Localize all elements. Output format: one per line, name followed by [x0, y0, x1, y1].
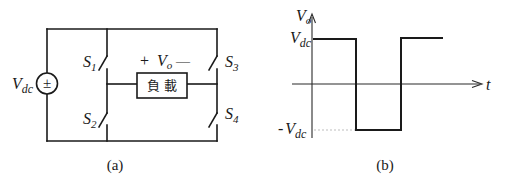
source-polarity-symbol: ± — [43, 75, 51, 91]
vo-plus-sign: + — [140, 52, 149, 69]
load-label: 負 載 — [147, 78, 177, 93]
diagram-canvas: ± Vdc 負 載 + Vo — S1 S2 S3 S4 (a) — [0, 0, 505, 182]
vdc-level-label: Vdc — [290, 29, 312, 50]
source-label: Vdc — [12, 75, 34, 96]
x-axis-label: t — [486, 76, 491, 93]
s2-label: S2 — [83, 110, 97, 130]
caption-b: (b) — [376, 157, 394, 174]
s4-label: S4 — [225, 105, 239, 125]
s4-switch-blade — [209, 113, 217, 127]
vo-minus-sign: — — [175, 54, 191, 69]
s3-label: S3 — [225, 53, 239, 73]
s1-switch-blade — [99, 56, 107, 70]
vo-label: Vo — [157, 52, 173, 71]
s1-label: S1 — [83, 53, 97, 73]
waveform-chart: Vo Vdc -Vdc t (b) — [278, 7, 491, 174]
s2-switch-blade — [99, 113, 107, 127]
y-axis-label: Vo — [296, 7, 312, 26]
circuit-diagram: ± Vdc 負 載 + Vo — S1 S2 S3 S4 (a) — [12, 29, 239, 174]
neg-vdc-level-label: -Vdc — [278, 120, 307, 141]
dc-source-icon: ± — [37, 73, 58, 94]
s3-switch-blade — [209, 56, 217, 70]
caption-a: (a) — [107, 157, 124, 174]
